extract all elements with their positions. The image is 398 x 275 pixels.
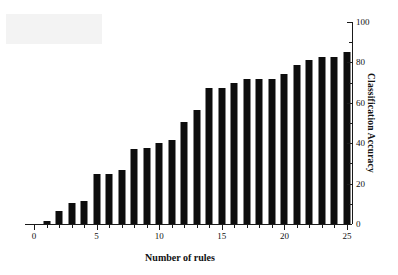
bar bbox=[156, 143, 163, 224]
y-tick-major bbox=[347, 22, 352, 23]
x-tick-minor bbox=[209, 224, 210, 228]
x-tick-minor bbox=[109, 224, 110, 228]
y-tick-major bbox=[347, 143, 352, 144]
bar bbox=[281, 74, 288, 224]
y-tick-major bbox=[347, 184, 352, 185]
y-tick-major bbox=[347, 62, 352, 63]
bar bbox=[243, 79, 250, 224]
bar bbox=[143, 148, 150, 224]
y-tick-major bbox=[347, 224, 352, 225]
x-tick-minor bbox=[197, 224, 198, 228]
bar bbox=[218, 88, 225, 224]
x-tick-minor bbox=[122, 224, 123, 228]
x-tick-minor bbox=[84, 224, 85, 228]
y-tick-major bbox=[347, 103, 352, 104]
bar bbox=[206, 88, 213, 224]
bar bbox=[293, 65, 300, 224]
x-tick-minor bbox=[322, 224, 323, 228]
x-tick-major bbox=[284, 224, 285, 230]
y-axis-line bbox=[352, 22, 353, 224]
x-tick-major bbox=[159, 224, 160, 230]
bar bbox=[331, 57, 338, 224]
x-tick-minor bbox=[72, 224, 73, 228]
x-tick-minor bbox=[259, 224, 260, 228]
x-tick-minor bbox=[147, 224, 148, 228]
y-tick-label: 0 bbox=[356, 219, 361, 229]
bar bbox=[193, 110, 200, 224]
bar bbox=[68, 203, 75, 224]
x-tick-minor bbox=[247, 224, 248, 228]
x-tick-label: 20 bbox=[280, 231, 289, 241]
x-axis-label: Number of rules bbox=[0, 252, 360, 263]
x-tick-label: 0 bbox=[32, 231, 37, 241]
x-tick-minor bbox=[172, 224, 173, 228]
bar bbox=[318, 57, 325, 224]
bar bbox=[106, 174, 113, 225]
bar bbox=[56, 211, 63, 224]
x-tick-major bbox=[222, 224, 223, 230]
plot-area bbox=[34, 22, 347, 224]
x-tick-major bbox=[34, 224, 35, 230]
x-tick-minor bbox=[272, 224, 273, 228]
x-tick-minor bbox=[309, 224, 310, 228]
x-tick-label: 10 bbox=[155, 231, 164, 241]
y-tick-minor bbox=[349, 42, 352, 43]
x-tick-minor bbox=[47, 224, 48, 228]
chart-figure: 0510152025 020406080100 Number of rules … bbox=[0, 0, 398, 275]
x-tick-minor bbox=[297, 224, 298, 228]
x-tick-label: 15 bbox=[217, 231, 226, 241]
bar bbox=[306, 60, 313, 224]
bar bbox=[268, 79, 275, 224]
bar bbox=[93, 174, 100, 225]
y-tick-minor bbox=[349, 204, 352, 205]
x-tick-minor bbox=[59, 224, 60, 228]
bar bbox=[131, 149, 138, 224]
bar bbox=[81, 201, 88, 224]
bar bbox=[181, 122, 188, 224]
x-tick-major bbox=[97, 224, 98, 230]
x-tick-minor bbox=[134, 224, 135, 228]
x-tick-minor bbox=[234, 224, 235, 228]
x-tick-minor bbox=[184, 224, 185, 228]
x-tick-label: 25 bbox=[343, 231, 352, 241]
bar bbox=[256, 79, 263, 224]
bar bbox=[231, 83, 238, 224]
x-axis-line bbox=[25, 224, 352, 225]
bar bbox=[344, 52, 351, 224]
y-tick-minor bbox=[349, 83, 352, 84]
y-tick-minor bbox=[349, 123, 352, 124]
y-axis-label: Classification Accuracy bbox=[362, 22, 376, 224]
bar bbox=[118, 170, 125, 224]
bar bbox=[168, 140, 175, 224]
x-tick-label: 5 bbox=[94, 231, 99, 241]
x-tick-minor bbox=[334, 224, 335, 228]
y-tick-minor bbox=[349, 163, 352, 164]
